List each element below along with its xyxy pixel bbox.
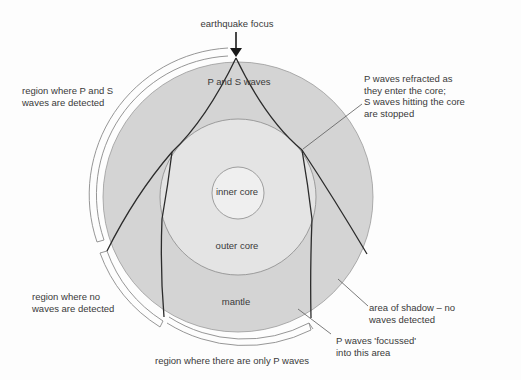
diagram-canvas: earthquake focus P and S waves inner cor… <box>0 0 521 380</box>
earthquake-focus-label: earthquake focus <box>201 18 274 29</box>
outer-core-label: outer core <box>216 240 259 251</box>
focus-arrow-icon <box>230 48 242 57</box>
leader-shadow <box>338 279 368 306</box>
p-and-s-waves-label: P and S waves <box>207 76 270 87</box>
shadow-annotation: area of shadow – no waves detected <box>369 302 455 325</box>
inner-core-label: inner core <box>216 186 258 197</box>
mantle-label: mantle <box>222 296 251 307</box>
focussed-annotation: P waves 'focussed' into this area <box>336 335 416 358</box>
only-p-annotation: region where there are only P waves <box>155 355 309 367</box>
leader-focussed <box>298 309 331 334</box>
refracted-annotation: P waves refracted as they enter the core… <box>364 73 465 119</box>
ps-detected-annotation: region where P and S waves are detected <box>22 85 113 108</box>
no-waves-annotation: region where no waves are detected <box>32 291 114 314</box>
